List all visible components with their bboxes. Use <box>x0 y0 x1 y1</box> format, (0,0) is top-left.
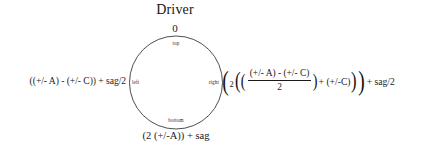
diagram-canvas: Driver 0 top bottom left right ((+/- A) … <box>0 0 426 151</box>
page-title: Driver <box>0 2 350 18</box>
circle-label-top: top <box>162 40 190 46</box>
fraction: (+/- A) - (+/- C) 2 <box>246 68 313 93</box>
circle-label-bottom: bottom <box>159 117 193 123</box>
right-formula: ( 2 ( ( (+/- A) - (+/- C) 2 ) + (+/-C) )… <box>221 58 395 104</box>
circle-label-left: left <box>132 79 139 85</box>
plus-c-term: + (+/-C) <box>318 76 351 87</box>
coefficient-two: 2 <box>229 79 234 90</box>
fraction-numerator: (+/- A) - (+/- C) <box>248 68 312 80</box>
bottom-formula: (2 (+/-A)) + sag <box>104 129 248 142</box>
left-formula: ((+/- A) - (+/- C)) + sag/2 <box>4 75 126 87</box>
circle-label-right: right <box>199 79 219 85</box>
fraction-denominator: 2 <box>277 81 282 93</box>
label-zero-value: 0 <box>160 22 190 35</box>
sag-tail: + sag/2 <box>366 76 395 87</box>
